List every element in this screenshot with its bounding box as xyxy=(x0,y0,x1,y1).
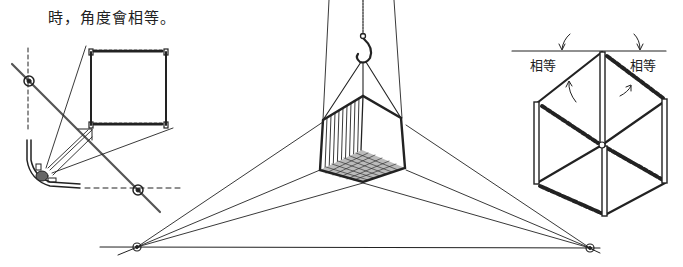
square-frame-icon xyxy=(89,49,168,128)
perspective-illustration: 相等 相等 xyxy=(0,0,683,267)
angle-arrow-icon xyxy=(634,34,643,50)
center-figure xyxy=(100,0,600,255)
equal-label-left: 相等 xyxy=(530,58,556,73)
observer-figure-icon xyxy=(27,140,80,188)
angle-arrow-icon xyxy=(620,85,631,96)
crate-icon xyxy=(320,96,405,182)
eye-point-icon xyxy=(24,76,34,86)
vanishing-point-icon xyxy=(118,243,141,255)
angle-arrow-icon xyxy=(566,81,576,102)
eye-point-icon xyxy=(133,185,143,195)
hook-icon xyxy=(357,34,371,63)
angle-arrow-icon xyxy=(559,34,570,50)
equal-label-right: 相等 xyxy=(630,58,656,73)
left-figure xyxy=(12,46,180,212)
